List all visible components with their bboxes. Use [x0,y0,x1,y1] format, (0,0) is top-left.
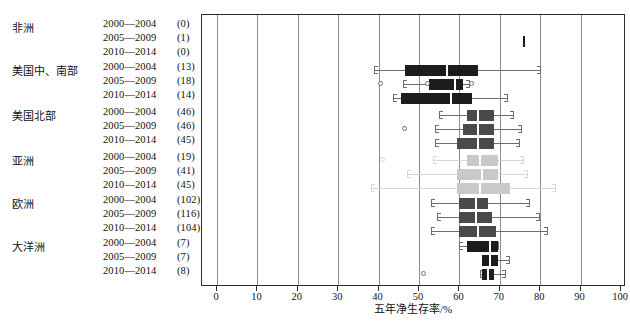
group-label-3: 美国北部 [12,107,56,123]
whisker-cap-high [504,94,508,102]
registry-count: (7) [177,251,190,262]
period-row: 2005—2009(46) [103,120,195,131]
box-iqr [457,138,493,149]
whisker-cap-high [502,270,506,278]
period-row: 2005—2009(7) [103,251,190,262]
boxplot-row [202,211,624,223]
registry-count: (46) [177,106,195,117]
period-row: 2005—2009(18) [103,75,195,86]
period-years: 2005—2009 [103,251,177,262]
boxplot-row [202,92,624,104]
boxplot-row [202,78,624,90]
median-line [454,79,456,90]
boxplot-row [202,254,624,266]
period-row: 2010—2014(0) [103,46,190,57]
boxplot-row [202,123,624,135]
box-iqr [463,124,493,135]
period-years: 2000—2004 [103,61,177,72]
period-years: 2010—2014 [103,265,177,276]
whisker-cap-low [431,227,435,235]
box-iqr [467,110,493,121]
period-row: 2010—2014(45) [103,134,195,145]
median-line [475,212,477,223]
period-row: 2000—2004(0) [103,18,190,29]
period-row: 2000—2004(102) [103,194,200,205]
boxplot-row [202,21,624,33]
registry-count: (7) [177,237,190,248]
box-iqr [401,93,472,104]
box-iqr [457,169,497,180]
whisker-cap-low [433,156,437,164]
period-years: 2005—2009 [103,75,177,86]
whisker-cap-low [437,213,441,221]
period-years: 2000—2004 [103,151,177,162]
registry-count: (0) [177,46,190,57]
whisker-cap-high [516,139,520,147]
whisker-cap-high [526,199,530,207]
period-row: 2000—2004(7) [103,237,190,248]
outlier-point [380,157,385,162]
box-iqr [459,198,487,209]
whisker-cap-low [439,111,443,119]
boxplot-row [202,197,624,209]
boxplot-row [202,35,624,47]
registry-count: (41) [177,165,195,176]
group-label-5: 欧洲 [12,195,34,211]
registry-count: (13) [177,61,195,72]
whisker-cap-low [431,199,435,207]
outlier-point [402,126,407,131]
median-line [477,226,479,237]
registry-count: (14) [177,89,195,100]
boxplot-row [202,240,624,252]
registry-count: (46) [177,120,195,131]
registry-count: (102) [177,194,200,205]
period-years: 2005—2009 [103,208,177,219]
outlier-point [425,81,430,86]
median-line [477,124,479,135]
median-line [521,36,523,47]
median-line [477,110,479,121]
period-years: 2010—2014 [103,134,177,145]
whisker-cap-low [403,80,407,88]
median-line [479,155,481,166]
whisker-cap-low [374,66,378,74]
registry-count: (0) [177,18,190,29]
box-iqr [467,155,497,166]
median-line [487,269,489,280]
period-row: 2010—2014(104) [103,222,200,233]
whisker-cap-low [435,139,439,147]
period-years: 2010—2014 [103,179,177,190]
median-line [489,255,491,266]
boxplot-row [202,64,624,76]
group-label-6: 大洋洲 [12,238,45,254]
whisker-cap-low [393,94,397,102]
median-line [489,241,491,252]
median-line [481,169,483,180]
period-years: 2005—2009 [103,32,177,43]
registry-count: (116) [177,208,200,219]
period-years: 2010—2014 [103,89,177,100]
boxplot-row [202,182,624,194]
boxplot-row [202,49,624,61]
period-years: 2010—2014 [103,222,177,233]
whisker-cap-high [552,184,556,192]
period-years: 2000—2004 [103,18,177,29]
group-label-2: 美国中、南部 [12,62,78,78]
registry-count: (104) [177,222,200,233]
period-row: 2005—2009(41) [103,165,195,176]
boxplot-row [202,168,624,180]
boxplot-row [202,109,624,121]
period-row: 2005—2009(116) [103,208,200,219]
median-line [479,183,481,194]
box-iqr [467,241,497,252]
registry-count: (8) [177,265,190,276]
period-row: 2010—2014(45) [103,179,195,190]
period-years: 2005—2009 [103,120,177,131]
registry-count: (45) [177,179,195,190]
boxplot-row [202,268,624,280]
whisker-cap-low [407,170,411,178]
period-years: 2000—2004 [103,106,177,117]
median-line [450,93,452,104]
whisker-cap-high [537,66,541,74]
period-row: 2010—2014(8) [103,265,190,276]
